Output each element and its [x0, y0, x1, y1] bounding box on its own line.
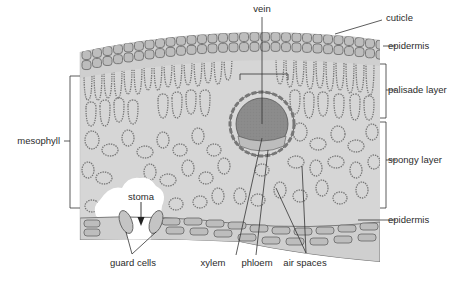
label-air-spaces: air spaces: [283, 257, 327, 268]
label-palisade-layer: palisade layer: [388, 84, 447, 95]
leaf-tissue: [70, 20, 390, 270]
label-mesophyll: mesophyll: [17, 135, 60, 146]
leaf-cross-section-diagram: vein cuticle epidermis palisade layer me…: [0, 0, 451, 284]
label-vein: vein: [253, 3, 270, 14]
label-epidermis-upper: epidermis: [388, 40, 429, 51]
label-phloem: phloem: [241, 257, 272, 268]
label-stoma: stoma: [128, 191, 155, 202]
label-guard-cells: guard cells: [110, 257, 156, 268]
label-spongy-layer: spongy layer: [388, 154, 442, 165]
label-xylem: xylem: [201, 257, 226, 268]
label-cuticle: cuticle: [386, 12, 413, 23]
label-epidermis-lower: epidermis: [388, 214, 429, 225]
